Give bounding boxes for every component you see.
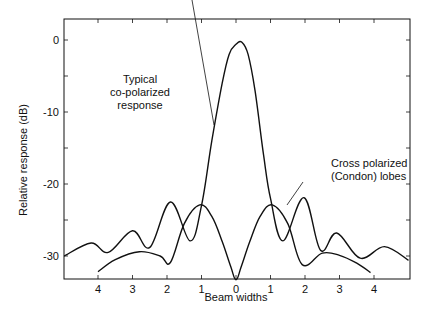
x-tick-label: 3	[129, 283, 135, 295]
crosspol-annotation-line1: Cross polarized	[331, 157, 407, 169]
y-tick-label: -20	[43, 178, 59, 190]
copol-annotation-line1: Typical	[123, 73, 157, 85]
crosspolarized-curve	[98, 205, 371, 280]
beam-pattern-chart: 4321012340-10-20-30 Beam widths Relative…	[0, 0, 429, 324]
y-tick-label: 0	[53, 34, 59, 46]
copol-annotation-line2: co-polarized	[110, 86, 170, 98]
y-tick-label: -10	[43, 106, 59, 118]
x-tick-label: 2	[164, 283, 170, 295]
x-tick-label: 4	[371, 283, 377, 295]
x-tick-label: 3	[336, 283, 342, 295]
copolarized-curve	[64, 41, 408, 260]
plot-frame	[64, 19, 410, 279]
x-tick-label: 4	[95, 283, 101, 295]
copol-annotation-line3: response	[117, 99, 162, 111]
x-tick-label: 1	[267, 283, 273, 295]
y-tick-label: -30	[43, 250, 59, 262]
crosspol-annotation-line2: (Condon) lobes	[331, 170, 407, 182]
x-axis-label: Beam widths	[205, 291, 268, 303]
y-axis-label: Relative response (dB)	[17, 104, 29, 216]
x-tick-label: 2	[302, 283, 308, 295]
